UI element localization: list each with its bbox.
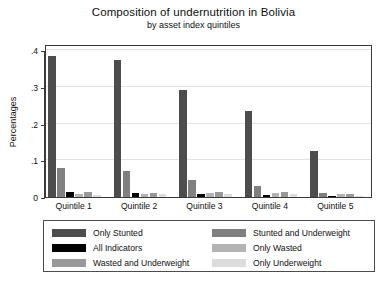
bar <box>215 192 223 197</box>
bar <box>188 180 196 197</box>
bar <box>290 194 298 197</box>
plot-area <box>45 45 372 198</box>
bar <box>114 60 122 197</box>
bar <box>224 194 232 197</box>
bar <box>57 168 65 197</box>
chart-title: Composition of undernutrition in Bolivia <box>0 5 387 19</box>
bar-group <box>308 46 373 197</box>
bar <box>150 193 158 197</box>
legend-label: All Indicators <box>93 243 142 253</box>
bar <box>132 193 140 197</box>
bar <box>48 56 56 197</box>
x-tick-label: Quintile 5 <box>317 201 353 211</box>
legend-column-left: Only StuntedAll IndicatorsWasted and Und… <box>52 226 189 271</box>
bar <box>355 196 363 198</box>
y-tick-label: 0 <box>33 194 38 203</box>
legend-label: Stunted and Underweight <box>253 228 350 238</box>
legend-label: Wasted and Underweight <box>93 258 189 268</box>
bar <box>337 194 345 197</box>
legend-swatch-icon <box>212 259 246 267</box>
legend-label: Only Stunted <box>93 228 143 238</box>
legend-label: Only Wasted <box>253 243 302 253</box>
bar <box>93 195 101 197</box>
bar <box>66 192 74 198</box>
bar-group <box>177 46 242 197</box>
legend-swatch-icon <box>52 229 86 237</box>
legend-entry[interactable]: Only Underweight <box>212 256 350 270</box>
bar <box>310 151 318 197</box>
y-axis: 0.1.2.3.4 Percentages <box>0 45 45 199</box>
legend-swatch-icon <box>212 244 246 252</box>
chart-header: Composition of undernutrition in Bolivia… <box>0 0 387 31</box>
bar <box>141 194 149 197</box>
legend-entry[interactable]: All Indicators <box>52 241 189 255</box>
y-tick-label: .4 <box>31 47 38 56</box>
legend-entry[interactable]: Only Wasted <box>212 241 350 255</box>
legend-entry[interactable]: Only Stunted <box>52 226 189 240</box>
bar <box>319 193 327 197</box>
bar <box>281 192 289 197</box>
bar <box>123 171 131 197</box>
y-tick-label: .1 <box>31 157 38 166</box>
bar-group <box>111 46 176 197</box>
chart-legend: Only StuntedAll IndicatorsWasted and Und… <box>43 220 375 272</box>
legend-entry[interactable]: Wasted and Underweight <box>52 256 189 270</box>
bar-group <box>46 46 111 197</box>
bar <box>206 193 214 197</box>
bar <box>159 194 167 197</box>
bar <box>179 90 187 197</box>
bar <box>75 194 83 197</box>
y-tick-label: .3 <box>31 83 38 92</box>
legend-label: Only Underweight <box>253 258 321 268</box>
bar-group <box>242 46 307 197</box>
bar <box>263 195 271 197</box>
x-tick-label: Quintile 2 <box>121 201 157 211</box>
x-tick-label: Quintile 3 <box>186 201 222 211</box>
legend-column-right: Stunted and UnderweightOnly WastedOnly U… <box>212 226 350 271</box>
legend-swatch-icon <box>52 259 86 267</box>
bar-groups <box>46 46 371 197</box>
chart-subtitle: by asset index quintiles <box>0 19 387 31</box>
bar <box>272 193 280 197</box>
legend-swatch-icon <box>212 229 246 237</box>
legend-swatch-icon <box>52 244 86 252</box>
y-tick-label: .2 <box>31 120 38 129</box>
x-tick-label: Quintile 1 <box>56 201 92 211</box>
bar <box>84 192 92 197</box>
bar <box>328 196 336 198</box>
bar <box>254 186 262 197</box>
x-axis: Quintile 1Quintile 2Quintile 3Quintile 4… <box>45 198 372 218</box>
bar <box>197 194 205 197</box>
legend-entry[interactable]: Stunted and Underweight <box>212 226 350 240</box>
x-tick-label: Quintile 4 <box>252 201 288 211</box>
y-axis-title: Percentages <box>8 62 18 182</box>
bar <box>245 111 253 197</box>
bar <box>346 194 354 197</box>
